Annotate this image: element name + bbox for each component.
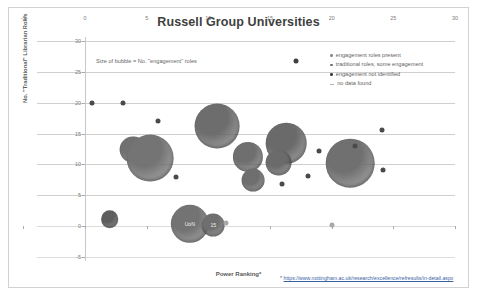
x-tick-label-10: 10 (205, 15, 211, 21)
x-tick-label-30: 30 (452, 15, 458, 21)
footnote-link[interactable]: https://www.nottingham.ac.uk/research/ex… (284, 275, 454, 281)
gridline-y-15 (37, 134, 455, 135)
bubble-point[interactable] (280, 182, 285, 187)
bubble-point[interactable] (265, 149, 292, 176)
gridline-y-5 (37, 195, 455, 196)
bubble-point[interactable] (306, 174, 311, 179)
footnote: *https://www.nottingham.ac.uk/research/e… (280, 275, 453, 281)
bubble-point[interactable] (381, 167, 386, 172)
legend-marker-icon (330, 54, 333, 57)
legend-item-label: no data found (337, 79, 371, 88)
y-tick-mark (82, 72, 85, 73)
x-tick-mark (270, 226, 271, 229)
x-tick-label-25: 25 (390, 15, 396, 21)
gridline-y-20 (37, 103, 455, 104)
bubble-point[interactable] (241, 169, 264, 192)
y-tick-label-10: 10 (75, 161, 81, 167)
gridline-y-30 (37, 41, 455, 42)
bubble-point[interactable] (233, 142, 263, 172)
y-tick-label-25: 25 (75, 69, 81, 75)
gridline-y-0 (37, 226, 455, 227)
bubble-point[interactable] (293, 58, 298, 63)
bubble-size-note: Size of bubble = No. "engagement" roles (96, 58, 197, 64)
y-tick-mark (82, 195, 85, 196)
x-tick-label-5: 5 (145, 15, 148, 21)
y-tick-label-5: 5 (78, 192, 81, 198)
y-tick-label-0: 0 (78, 223, 81, 229)
bubble-label: 15 (210, 222, 216, 228)
page-title: Russell Group Universities (8, 15, 469, 29)
x-tick-mark (147, 226, 148, 229)
bubble-point[interactable] (174, 175, 179, 180)
x-tick-label-0: 0 (84, 15, 87, 21)
legend-item[interactable]: traditional roles, some engagement (330, 60, 465, 69)
bubble-point[interactable] (101, 211, 119, 229)
x-tick-mark (455, 226, 456, 229)
x-tick-label-15: 15 (267, 15, 273, 21)
bubble-point[interactable] (353, 143, 358, 148)
x-tick-mark (23, 226, 24, 229)
legend-item-label: engagement roles present (336, 51, 401, 60)
bubble-point[interactable] (326, 139, 375, 188)
footnote-star: * (280, 275, 282, 281)
legend-marker-icon (330, 84, 334, 85)
legend-marker-icon (330, 73, 333, 76)
bubble-point[interactable] (380, 127, 385, 132)
y-tick-mark (82, 164, 85, 165)
y-tick-label-15: 15 (75, 131, 81, 137)
screenshot-root: Russell Group Universities No. "Traditio… (0, 0, 478, 297)
gridline-y--5 (37, 257, 455, 258)
y-tick-mark (82, 257, 85, 258)
bubble-point[interactable] (195, 104, 240, 149)
legend-item-label: engagement not identified (336, 70, 400, 79)
bubble-point[interactable] (121, 100, 126, 105)
y-tick-label--5: -5 (76, 254, 81, 260)
x-tick-mark (393, 226, 394, 229)
chart-container[interactable]: Russell Group Universities No. "Traditio… (8, 7, 469, 288)
legend-item[interactable]: engagement not identified (330, 70, 465, 79)
legend-marker-icon (330, 64, 333, 67)
legend-item[interactable]: engagement roles present (330, 51, 465, 60)
y-tick-mark (82, 134, 85, 135)
bubble-point[interactable]: 15 (202, 214, 225, 237)
bubble-point[interactable] (90, 100, 95, 105)
y-tick-mark (82, 41, 85, 42)
y-tick-label-20: 20 (75, 100, 81, 106)
bubble-point[interactable] (317, 149, 322, 154)
legend: engagement roles presenttraditional role… (330, 51, 465, 89)
bubble-point[interactable] (127, 135, 174, 182)
y-tick-mark (82, 103, 85, 104)
legend-item[interactable]: no data found (330, 79, 465, 88)
bubble-point[interactable] (223, 221, 228, 226)
y-tick-label-30: 30 (75, 38, 81, 44)
bubble-label: UoN (185, 221, 195, 227)
bubble-point[interactable] (329, 222, 334, 227)
x-tick-label-20: 20 (329, 15, 335, 21)
x-tick-label--5: -5 (21, 15, 26, 21)
x-tick-mark (85, 226, 86, 229)
bubble-point[interactable] (155, 119, 160, 124)
legend-item-label: traditional roles, some engagement (336, 60, 423, 69)
